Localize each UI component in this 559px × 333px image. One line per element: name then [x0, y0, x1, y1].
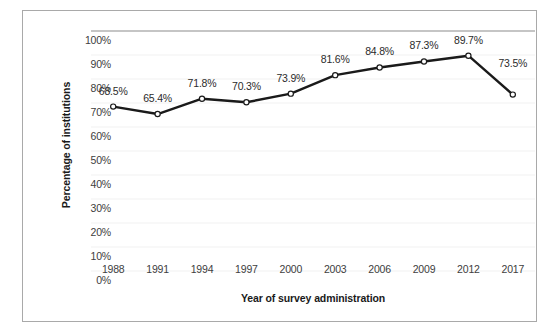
x-axis-tick-labels: 1988199119941997200020032006200920122017	[23, 263, 538, 281]
x-axis-tick-label: 1991	[134, 263, 182, 275]
data-point-marker	[288, 91, 293, 96]
data-point-label: 73.5%	[486, 57, 540, 69]
data-point-marker	[421, 59, 426, 64]
data-point-marker	[377, 65, 382, 70]
figure: Percentage of institutions 100%90%80%70%…	[0, 0, 559, 333]
plot-area: 68.5%65.4%71.8%70.3%73.9%81.6%84.8%87.3%…	[91, 18, 535, 269]
data-point-marker	[466, 53, 471, 58]
data-point-marker	[510, 92, 515, 97]
data-point-label: 73.9%	[264, 72, 318, 84]
gridlines	[91, 31, 535, 271]
x-axis-tick-label: 2000	[267, 263, 315, 275]
data-point-marker	[333, 73, 338, 78]
x-axis-tick-label: 1988	[89, 263, 137, 275]
x-axis-tick-label: 2009	[400, 263, 448, 275]
x-axis-tick-label: 2012	[444, 263, 492, 275]
data-point-label: 65.4%	[131, 92, 185, 104]
x-axis-title: Year of survey administration	[91, 292, 535, 304]
data-point-label: 89.7%	[441, 34, 495, 46]
data-point-marker	[155, 111, 160, 116]
data-point-marker	[199, 96, 204, 101]
x-axis-tick-label: 1994	[178, 263, 226, 275]
x-axis-tick-label: 1997	[222, 263, 270, 275]
chart-frame: Percentage of institutions 100%90%80%70%…	[22, 10, 537, 322]
x-axis-tick-label: 2017	[489, 263, 537, 275]
x-axis-tick-label: 2003	[311, 263, 359, 275]
x-axis-tick-label: 2006	[356, 263, 404, 275]
data-point-marker	[111, 104, 116, 109]
data-point-marker	[244, 100, 249, 105]
